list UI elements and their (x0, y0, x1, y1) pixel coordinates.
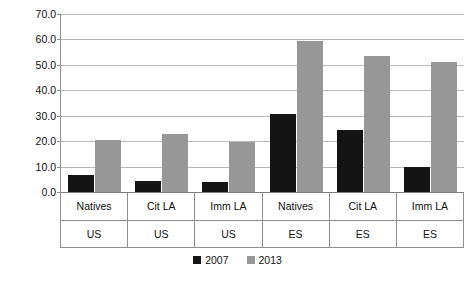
y-axis-tick-label: 50.0 (18, 60, 56, 70)
x-axis-group-label: US (195, 221, 261, 248)
bar-group (397, 14, 464, 192)
x-axis-category-label: Cit LA (128, 193, 194, 221)
y-axis-tick-label: 20.0 (18, 136, 56, 146)
y-axis-tick-labels: 70.060.050.040.030.020.010.00.0 (18, 8, 56, 192)
y-axis-tick-label: 10.0 (18, 162, 56, 172)
y-axis-tick-label: 60.0 (18, 34, 56, 44)
x-axis-group-label: US (128, 221, 194, 248)
x-axis-category-column: Imm LAES (397, 193, 463, 247)
x-axis-category-column: Cit LAES (330, 193, 397, 247)
bar-2013-1[interactable] (95, 140, 121, 192)
y-axis-tick-label: 0.0 (18, 187, 56, 197)
y-axis-tick-label: 70.0 (18, 9, 56, 19)
bar-chart: Percentage 70.060.050.040.030.020.010.00… (0, 0, 475, 282)
bar-2013-2[interactable] (162, 134, 188, 192)
bar-2007-2[interactable] (135, 181, 161, 192)
bar-2013-4[interactable] (297, 41, 323, 192)
bar-2007-3[interactable] (202, 182, 228, 192)
x-axis-category-column: Cit LAUS (128, 193, 195, 247)
bar-2007-1[interactable] (68, 175, 94, 192)
bar-2007-5[interactable] (337, 130, 363, 192)
x-axis-category-column: NativesUS (61, 193, 128, 247)
x-axis-group-label: ES (330, 221, 396, 248)
bar-group (330, 14, 397, 192)
bar-group (61, 14, 128, 192)
bar-group (263, 14, 330, 192)
legend-swatch-icon (247, 256, 255, 264)
legend-entry-2013[interactable]: 2013 (247, 254, 282, 266)
x-axis-category-label: Imm LA (195, 193, 261, 221)
x-axis-group-label: US (61, 221, 127, 248)
bar-2013-5[interactable] (364, 56, 390, 192)
legend-entry-2007[interactable]: 2007 (193, 254, 228, 266)
bar-groups (61, 14, 464, 192)
x-axis-group-label: ES (397, 221, 463, 248)
x-axis-category-table: NativesUSCit LAUSImm LAUSNativesESCit LA… (60, 192, 464, 248)
x-axis-category-column: Imm LAUS (195, 193, 262, 247)
x-axis-group-label: ES (263, 221, 329, 248)
bar-2007-6[interactable] (404, 167, 430, 192)
x-axis-category-column: NativesES (263, 193, 330, 247)
x-axis-category-label: Natives (263, 193, 329, 221)
bar-group (195, 14, 262, 192)
plot-area (60, 14, 464, 192)
x-axis-category-label: Natives (61, 193, 127, 221)
legend-label: 2013 (259, 254, 282, 266)
bar-2007-4[interactable] (270, 114, 296, 192)
legend-swatch-icon (193, 256, 201, 264)
y-axis-tick-label: 40.0 (18, 85, 56, 95)
bar-group (128, 14, 195, 192)
chart-legend: 20072013 (0, 254, 475, 266)
x-axis-category-label: Cit LA (330, 193, 396, 221)
x-axis-category-label: Imm LA (397, 193, 463, 221)
legend-label: 2007 (205, 254, 228, 266)
bar-2013-3[interactable] (229, 142, 255, 192)
y-axis-tick-label: 30.0 (18, 111, 56, 121)
bar-2013-6[interactable] (431, 62, 457, 192)
